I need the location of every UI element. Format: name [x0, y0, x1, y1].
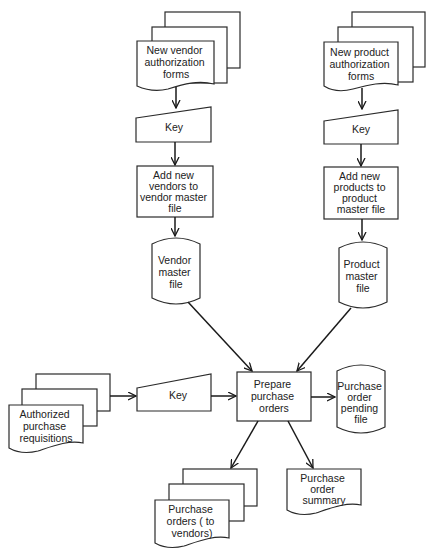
- vendor-forms-multidoc: New vendor authorization forms: [137, 12, 240, 90]
- product-key-manual-input: Key: [324, 110, 398, 144]
- po-pending-disk: Purchase order pending file: [337, 365, 385, 433]
- arrow-prepare-to-po-summary: [288, 421, 313, 468]
- vendor-master-disk: Vendor master file: [152, 238, 200, 304]
- requisition-key-label: Key: [169, 389, 188, 401]
- add-products-process: Add new products to product master file: [324, 167, 398, 219]
- add-products-label: Add new products to product master file: [334, 170, 389, 215]
- prepare-orders-process: Prepare purchase orders: [237, 372, 311, 421]
- requisition-key-manual-input: Key: [137, 374, 211, 411]
- product-forms-multidoc: New product authorization forms: [324, 12, 425, 91]
- purchasing-flowchart: New vendor authorization forms Key Add n…: [0, 0, 431, 556]
- po-summary-document: Purchase order summary: [287, 469, 361, 514]
- product-master-disk: Product master file: [339, 242, 387, 308]
- vendor-key-manual-input: Key: [136, 107, 211, 142]
- po-vendors-label: Purchase orders ( to vendors): [167, 503, 218, 539]
- add-vendors-process: Add new vendors to vendor master file: [137, 166, 213, 217]
- arrow-product-master-to-prepare: [297, 308, 351, 371]
- po-vendors-multidoc: Purchase orders ( to vendors): [155, 469, 257, 547]
- product-key-label: Key: [352, 123, 371, 135]
- requisitions-label: Authorized purchase requisitions: [19, 408, 72, 444]
- arrow-vendor-master-to-prepare: [188, 302, 252, 371]
- requisitions-multidoc: Authorized purchase requisitions: [9, 374, 110, 452]
- arrow-prepare-to-po-vendors: [231, 421, 258, 468]
- vendor-key-label: Key: [165, 121, 184, 133]
